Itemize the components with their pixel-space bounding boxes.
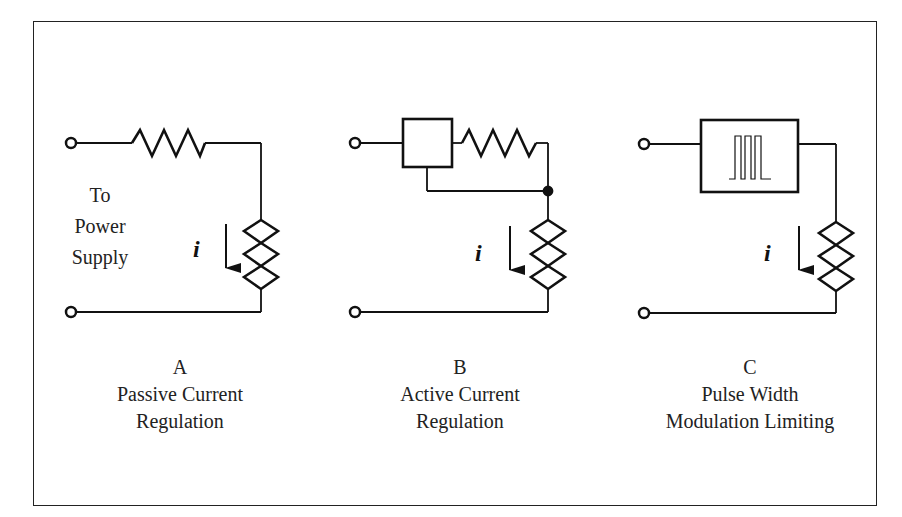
caption-c: C Pulse Width Modulation Limiting [630,354,870,435]
caption-b: B Active Current Regulation [350,354,570,435]
terminal-top-icon [639,139,649,149]
caption-a-letter: A [70,354,290,381]
regulator-box-icon [403,119,452,167]
caption-b-line2: Regulation [350,408,570,435]
heater-coil-icon [531,220,565,289]
current-symbol-b: i [475,240,482,267]
current-symbol-c: i [764,240,771,267]
pwm-box-icon [701,120,798,192]
resistor-icon [132,130,205,156]
resistor-icon [462,130,536,156]
caption-b-line1: Active Current [350,381,570,408]
caption-c-line2: Modulation Limiting [630,408,870,435]
circuit-b [350,119,565,317]
power-supply-line2: Power [45,211,155,242]
power-supply-line1: To [45,180,155,211]
terminal-bottom-icon [66,307,76,317]
caption-a: A Passive Current Regulation [70,354,290,435]
terminal-top-icon [350,138,360,148]
junction-dot-icon [544,187,553,196]
pulse-waveform-icon [729,136,771,179]
terminal-bottom-icon [639,308,649,318]
caption-c-line1: Pulse Width [630,381,870,408]
power-supply-label: To Power Supply [45,180,155,273]
caption-a-line2: Regulation [70,408,290,435]
terminal-bottom-icon [350,307,360,317]
caption-b-letter: B [350,354,570,381]
heater-coil-icon [819,222,853,291]
circuit-c [639,120,853,318]
heater-coil-icon [244,220,278,289]
caption-c-letter: C [630,354,870,381]
current-symbol-a: i [193,236,200,263]
terminal-top-icon [66,138,76,148]
power-supply-line3: Supply [45,242,155,273]
caption-a-line1: Passive Current [70,381,290,408]
